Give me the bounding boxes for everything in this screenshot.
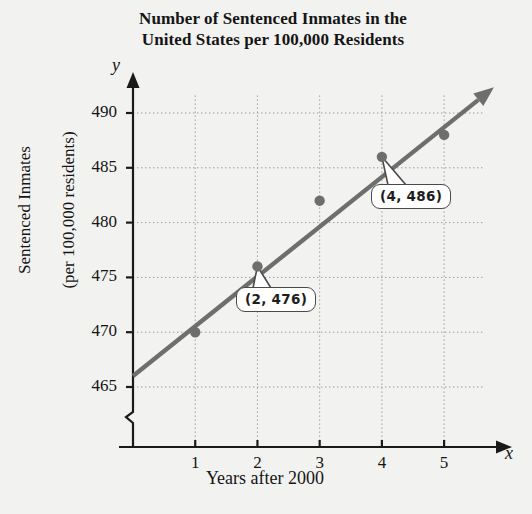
axes [119,72,512,454]
y-axis-arrow-icon [127,72,140,88]
data-points [190,130,449,338]
data-point-callout: (4, 486) [371,184,451,209]
trend-line-segment [133,100,478,376]
y-tick-label: 490 [71,102,117,122]
data-point [190,327,200,337]
axis-break-icon [126,404,133,447]
x-tick-label: 3 [308,453,332,473]
y-tick-label: 485 [71,157,117,177]
data-point [439,130,449,140]
y-tick-label: 480 [71,212,117,232]
y-tick-label: 465 [71,376,117,396]
x-axis-arrow-icon [496,441,512,454]
x-tick-label: 2 [245,453,269,473]
y-tick-label: 475 [71,266,117,286]
data-point-callout: (2, 476) [236,287,316,312]
plot-area [0,0,532,514]
chart-figure: Number of Sentenced Inmates in the Unite… [0,0,532,514]
data-point [314,195,324,205]
x-tick-label: 5 [432,453,456,473]
y-tick-label: 470 [71,321,117,341]
gridlines [133,95,485,446]
x-tick-label: 4 [370,453,394,473]
data-point [377,152,387,162]
trend-line [133,87,494,376]
data-point [252,261,262,271]
x-tick-label: 1 [183,453,207,473]
